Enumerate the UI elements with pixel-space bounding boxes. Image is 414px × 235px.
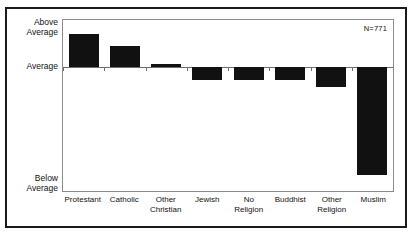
bar[interactable] — [234, 67, 264, 80]
bar-series — [63, 20, 393, 191]
bar[interactable] — [316, 67, 346, 87]
bar[interactable] — [110, 46, 140, 67]
x-axis-tick — [63, 67, 64, 71]
bar-slot — [352, 20, 393, 191]
bar[interactable] — [357, 67, 387, 175]
bar-slot — [228, 20, 269, 191]
x-axis-tick — [352, 67, 353, 71]
bar-slot — [63, 20, 104, 191]
x-axis-tick — [104, 67, 105, 71]
bar-slot — [146, 20, 187, 191]
bar[interactable] — [151, 64, 181, 67]
bar-slot — [104, 20, 145, 191]
x-axis-label: Catholic — [104, 195, 146, 214]
y-axis-label-above-average: Above Average — [6, 18, 58, 37]
y-axis-label-below-average: Below Average — [6, 174, 58, 193]
x-axis-tick — [228, 67, 229, 71]
x-axis-label: Muslim — [353, 195, 395, 214]
bar[interactable] — [275, 67, 305, 80]
x-axis-tick — [311, 67, 312, 71]
bar-slot — [269, 20, 310, 191]
bar[interactable] — [69, 34, 99, 67]
x-axis-label: Buddhist — [270, 195, 312, 214]
x-axis-label: Other Religion — [311, 195, 353, 214]
x-axis-label: No Religion — [228, 195, 270, 214]
x-axis-tick — [187, 67, 188, 71]
x-axis-tick — [146, 67, 147, 71]
x-axis-label: Other Christian — [145, 195, 187, 214]
x-axis-label: Protestant — [62, 195, 104, 214]
x-axis-labels: ProtestantCatholicOther ChristianJewishN… — [62, 195, 394, 214]
figure-border: Above Average Average Below Average N=77… — [5, 7, 407, 228]
bar-slot — [187, 20, 228, 191]
y-axis-label-average: Average — [6, 62, 58, 72]
x-axis-tick — [269, 67, 270, 71]
plot-area: Above Average Average Below Average N=77… — [62, 19, 394, 192]
x-axis-label: Jewish — [187, 195, 229, 214]
bar[interactable] — [192, 67, 222, 80]
bar-slot — [311, 20, 352, 191]
